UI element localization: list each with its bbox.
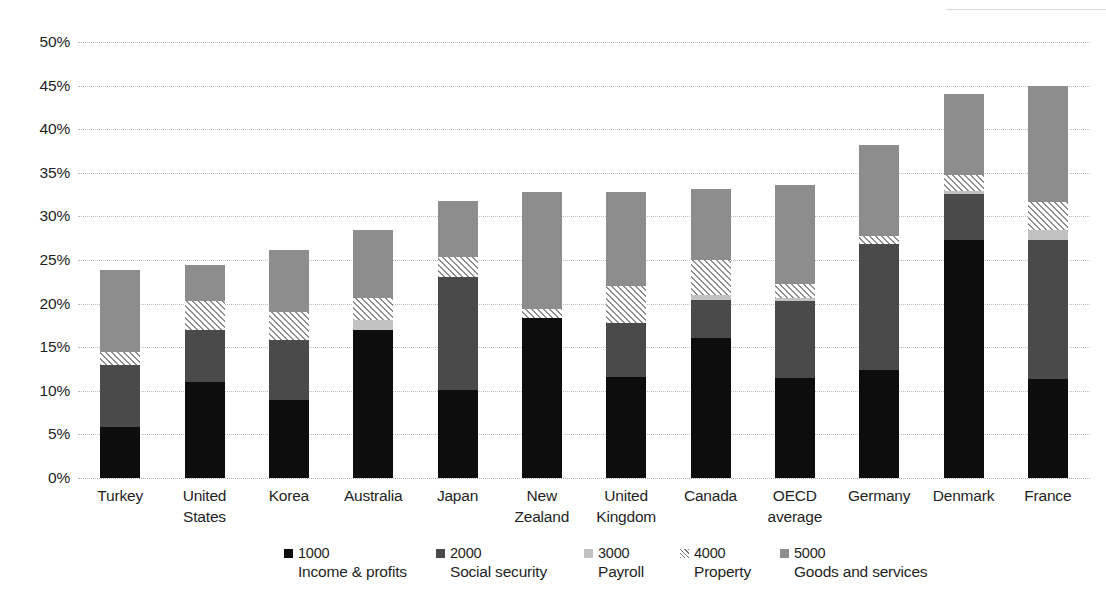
bar-segment-2000[interactable] (269, 340, 309, 399)
bar-segment-1000[interactable] (438, 390, 478, 478)
legend-code: 3000 (598, 545, 629, 561)
bar-segment-1000[interactable] (944, 240, 984, 478)
legend-code: 4000 (694, 545, 725, 561)
y-axis-tick-label: 40% (8, 120, 70, 138)
bar-group[interactable] (775, 42, 815, 478)
bar-group[interactable] (269, 42, 309, 478)
y-axis: 0%5%10%15%20%25%30%35%40%45%50% (0, 42, 70, 478)
bar-group[interactable] (100, 42, 140, 478)
bar-segment-4000[interactable] (438, 257, 478, 278)
bar-segment-4000[interactable] (606, 286, 646, 323)
bar-segment-4000[interactable] (1028, 202, 1068, 231)
legend-code: 2000 (450, 545, 481, 561)
bar-group[interactable] (691, 42, 731, 478)
bar-segment-3000[interactable] (944, 191, 984, 194)
legend-label: Property (694, 563, 751, 581)
bar-segment-5000[interactable] (522, 192, 562, 309)
bar-segment-2000[interactable] (1028, 240, 1068, 380)
bar-segment-5000[interactable] (859, 145, 899, 236)
bar-group[interactable] (944, 42, 984, 478)
legend-code: 5000 (794, 545, 825, 561)
bar-segment-1000[interactable] (691, 338, 731, 478)
bar-group[interactable] (353, 42, 393, 478)
bar-segment-2000[interactable] (691, 300, 731, 337)
x-axis: TurkeyUnited StatesKoreaAustraliaJapanNe… (78, 485, 1090, 533)
legend-label: Payroll (598, 563, 644, 581)
bar-segment-5000[interactable] (269, 250, 309, 312)
bar-group[interactable] (1028, 42, 1068, 478)
x-axis-tick-label: Germany (837, 485, 921, 506)
bar-segment-2000[interactable] (185, 330, 225, 382)
bar-segment-1000[interactable] (269, 400, 309, 478)
x-axis-tick-label: United States (162, 485, 246, 527)
bar-segment-2000[interactable] (775, 301, 815, 378)
bar-segment-3000[interactable] (775, 298, 815, 301)
bar-segment-3000[interactable] (1028, 230, 1068, 240)
bar-segment-1000[interactable] (775, 378, 815, 478)
bar-segment-5000[interactable] (775, 185, 815, 284)
bar-segment-2000[interactable] (606, 323, 646, 377)
bar-segment-1000[interactable] (100, 427, 140, 478)
bar-segment-3000[interactable] (691, 295, 731, 300)
bar-segment-2000[interactable] (438, 277, 478, 389)
bar-segment-3000[interactable] (353, 320, 393, 330)
x-axis-tick-label: France (1006, 485, 1090, 506)
legend-item-5000[interactable]: 5000Goods and services (780, 543, 927, 581)
bar-group[interactable] (185, 42, 225, 478)
bar-segment-4000[interactable] (522, 309, 562, 318)
bar-segment-1000[interactable] (1028, 379, 1068, 478)
x-axis-tick-label: Japan (415, 485, 499, 506)
legend-item-2000[interactable]: 2000Social security (436, 543, 547, 581)
legend-item-4000[interactable]: 4000Property (680, 543, 751, 581)
bar-segment-2000[interactable] (100, 365, 140, 428)
bar-group[interactable] (438, 42, 478, 478)
bar-segment-5000[interactable] (1028, 86, 1068, 202)
bar-segment-4000[interactable] (775, 284, 815, 298)
bar-segment-1000[interactable] (353, 330, 393, 478)
bar-segment-4000[interactable] (269, 312, 309, 340)
bar-segment-5000[interactable] (438, 201, 478, 257)
bar-segment-4000[interactable] (859, 236, 899, 245)
y-axis-tick-label: 30% (8, 207, 70, 225)
bar-segment-4000[interactable] (353, 298, 393, 320)
bar-segment-2000[interactable] (859, 244, 899, 370)
legend-label: Income & profits (298, 563, 407, 581)
chart-legend: 1000Income & profits2000Social security3… (284, 543, 844, 589)
bar-group[interactable] (859, 42, 899, 478)
bar-segment-5000[interactable] (691, 189, 731, 260)
x-axis-tick-label: Turkey (78, 485, 162, 506)
y-axis-tick-label: 10% (8, 382, 70, 400)
x-axis-tick-label: United Kingdom (584, 485, 668, 527)
legend-label: Social security (450, 563, 547, 581)
y-axis-tick-label: 35% (8, 164, 70, 182)
bar-segment-4000[interactable] (691, 260, 731, 295)
bar-segment-5000[interactable] (185, 265, 225, 301)
bar-segment-1000[interactable] (522, 318, 562, 478)
bar-group[interactable] (522, 42, 562, 478)
legend-code: 1000 (298, 545, 329, 561)
x-axis-tick-label: Australia (331, 485, 415, 506)
y-axis-tick-label: 50% (8, 33, 70, 51)
bar-segment-4000[interactable] (100, 352, 140, 364)
legend-label: Goods and services (794, 563, 927, 581)
x-axis-tick-label: Denmark (921, 485, 1005, 506)
bar-group[interactable] (606, 42, 646, 478)
legend-item-3000[interactable]: 3000Payroll (584, 543, 644, 581)
bar-segment-5000[interactable] (353, 230, 393, 299)
gridline (78, 478, 1090, 479)
legend-swatch-icon (584, 549, 593, 558)
x-axis-tick-label: New Zealand (500, 485, 584, 527)
bar-segment-1000[interactable] (185, 382, 225, 478)
y-axis-tick-label: 5% (8, 425, 70, 443)
bar-segment-5000[interactable] (944, 94, 984, 175)
bar-segment-4000[interactable] (185, 301, 225, 330)
bar-segment-4000[interactable] (944, 175, 984, 191)
bar-segment-2000[interactable] (944, 194, 984, 240)
legend-item-1000[interactable]: 1000Income & profits (284, 543, 407, 581)
bar-segment-5000[interactable] (100, 270, 140, 352)
bar-segment-1000[interactable] (859, 370, 899, 478)
bar-segment-1000[interactable] (606, 377, 646, 478)
bar-segment-5000[interactable] (606, 192, 646, 286)
legend-swatch-icon (780, 549, 789, 558)
legend-swatch-icon (680, 549, 689, 558)
